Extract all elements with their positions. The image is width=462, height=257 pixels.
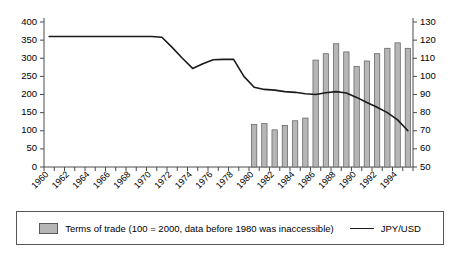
legend-entry-terms-of-trade: Terms of trade (100 = 2000, data before … (39, 223, 334, 234)
bar-1991 (364, 61, 369, 167)
bar-1990 (354, 66, 359, 167)
left-axis-tick-label: 250 (21, 70, 37, 81)
dual-axis-combo-chart: 0501001502002503003504005060708090100110… (0, 0, 462, 205)
x-axis-tick-label: 1984 (275, 169, 296, 190)
bar-1980 (251, 124, 256, 167)
right-axis-tick-label: 120 (420, 34, 436, 45)
bar-1982 (272, 130, 277, 167)
x-axis-tick-label: 1974 (173, 169, 194, 190)
bar-1995 (405, 48, 410, 167)
x-axis-tick-label: 1988 (316, 169, 337, 190)
x-axis-tick-label: 1966 (91, 169, 112, 190)
bar-1985 (303, 118, 308, 167)
chart-screenshot: 0501001502002503003504005060708090100110… (0, 0, 462, 257)
x-axis-tick-label: 1968 (111, 169, 132, 190)
bar-swatch-icon (39, 223, 58, 234)
legend-label-jpy-usd: JPY/USD (381, 223, 421, 234)
right-axis-tick-label: 100 (420, 70, 436, 81)
legend-label-terms-of-trade: Terms of trade (100 = 2000, data before … (65, 223, 334, 234)
bar-1992 (374, 54, 379, 167)
x-axis-tick-label: 1980 (234, 169, 255, 190)
left-axis-tick-label: 50 (26, 142, 37, 153)
x-axis-tick-label: 1982 (255, 169, 276, 190)
x-axis-tick-label: 1960 (29, 169, 50, 190)
x-axis-tick-label: 1992 (357, 169, 378, 190)
bar-1994 (395, 43, 400, 167)
bar-1981 (262, 124, 267, 168)
legend-entry-jpy-usd: JPY/USD (350, 223, 421, 234)
left-axis-tick-label: 100 (21, 124, 37, 135)
right-axis-tick-label: 80 (420, 106, 431, 117)
x-axis-tick-label: 1970 (132, 169, 153, 190)
x-axis-tick-label: 1976 (193, 169, 214, 190)
line-swatch-icon (350, 228, 374, 229)
chart-legend: Terms of trade (100 = 2000, data before … (16, 211, 444, 245)
left-axis-tick-label: 150 (21, 106, 37, 117)
right-axis-tick-label: 70 (420, 124, 431, 135)
left-axis-tick-label: 300 (21, 52, 37, 63)
bar-1987 (323, 54, 328, 167)
bar-1989 (344, 52, 349, 167)
bar-1984 (292, 121, 297, 167)
right-axis-tick-label: 60 (420, 142, 431, 153)
x-axis-tick-label: 1962 (50, 169, 71, 190)
x-axis-tick-label: 1978 (214, 169, 235, 190)
x-axis-tick-label: 1986 (296, 169, 317, 190)
right-axis-tick-label: 90 (420, 88, 431, 99)
right-axis-tick-label: 110 (420, 52, 435, 63)
bar-1993 (385, 48, 390, 167)
x-axis-tick-label: 1964 (70, 169, 91, 190)
left-axis-tick-label: 0 (32, 161, 37, 172)
x-axis-tick-label: 1994 (378, 169, 399, 190)
x-axis-tick-label: 1972 (152, 169, 173, 190)
right-axis-tick-label: 130 (420, 16, 436, 27)
right-axis-tick-label: 50 (420, 161, 431, 172)
left-axis-tick-label: 400 (21, 16, 37, 27)
bar-1986 (313, 60, 318, 167)
x-axis-tick-label: 1990 (337, 169, 358, 190)
left-axis-tick-label: 350 (21, 34, 37, 45)
chart-plot-area: 0501001502002503003504005060708090100110… (0, 0, 462, 205)
bar-1988 (333, 44, 338, 167)
bar-1983 (282, 125, 287, 167)
left-axis-tick-label: 200 (21, 88, 37, 99)
